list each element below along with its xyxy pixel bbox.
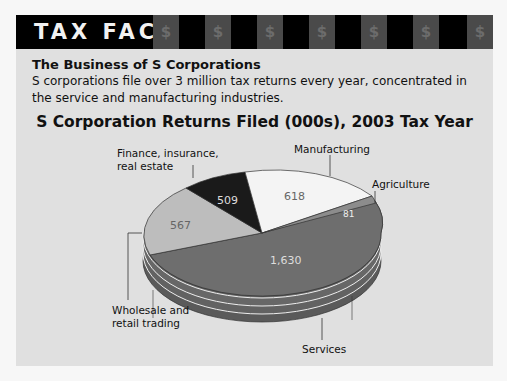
pie-chart [0, 0, 507, 381]
callout-services: Services [302, 343, 346, 356]
callout-finance: Finance, insurance, real estate [117, 147, 219, 173]
callout-agriculture: Agriculture [372, 178, 430, 191]
value-label-services: 1,630 [270, 254, 302, 267]
pie-top [144, 170, 383, 296]
value-label-agriculture: 81 [343, 208, 354, 221]
value-label-finance: 509 [217, 194, 238, 207]
callout-manufacturing: Manufacturing [294, 143, 370, 156]
value-label-wholesale: 567 [170, 219, 191, 232]
value-label-manufacturing: 618 [284, 190, 305, 203]
callout-wholesale: Wholesale and retail trading [112, 304, 189, 330]
